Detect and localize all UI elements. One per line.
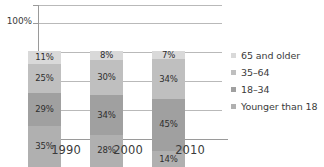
bar-segment-35-64[interactable]: 34% bbox=[152, 59, 185, 98]
segment-value-label: 29% bbox=[35, 105, 53, 114]
legend-label: 35–64 bbox=[241, 67, 269, 78]
legend-swatch-icon bbox=[231, 70, 236, 75]
y-axis-tick bbox=[33, 5, 38, 6]
gridline bbox=[38, 110, 222, 111]
segment-value-label: 7% bbox=[162, 51, 175, 60]
legend-swatch-icon bbox=[231, 87, 236, 92]
segment-value-label: 45% bbox=[159, 120, 177, 129]
plot-area bbox=[38, 5, 222, 139]
bar-segment-18-34[interactable]: 34% bbox=[90, 95, 123, 134]
bar-segment-65-and-older[interactable]: 11% bbox=[28, 51, 61, 64]
gridline bbox=[38, 52, 222, 53]
y-axis-tick bbox=[33, 23, 38, 24]
gridline bbox=[38, 81, 222, 82]
y-axis-label-100: 100% bbox=[1, 16, 32, 26]
legend-swatch-icon bbox=[231, 53, 236, 58]
x-axis-label-1990: 1990 bbox=[36, 143, 96, 157]
legend-label: 18–34 bbox=[241, 84, 269, 95]
legend-item-35-64[interactable]: 35–64 bbox=[231, 64, 323, 81]
segment-value-label: 11% bbox=[35, 53, 53, 62]
legend-item-younger-than-18[interactable]: Younger than 18 bbox=[231, 98, 323, 115]
segment-value-label: 8% bbox=[100, 51, 113, 60]
bar-segment-18-34[interactable]: 29% bbox=[28, 93, 61, 127]
segment-value-label: 30% bbox=[97, 73, 115, 82]
bar-segment-35-64[interactable]: 25% bbox=[28, 64, 61, 93]
legend-swatch-icon bbox=[231, 104, 236, 109]
gridline-100-percent bbox=[38, 23, 222, 24]
segment-value-label: 25% bbox=[35, 74, 53, 83]
bar-segment-35-64[interactable]: 30% bbox=[90, 60, 123, 95]
legend-item-18-34[interactable]: 18–34 bbox=[231, 81, 323, 98]
x-axis-label-2000: 2000 bbox=[98, 143, 158, 157]
bar-segment-65-and-older[interactable]: 8% bbox=[90, 51, 123, 60]
legend-item-65-and-older[interactable]: 65 and older bbox=[231, 47, 323, 64]
chart-legend: 65 and older 35–64 18–34 Younger than 18 bbox=[231, 47, 323, 115]
gridline bbox=[38, 5, 222, 6]
stacked-bar-chart: 100% 11% 25% 29% 35% 8% 30% 34% 28% 7% 3… bbox=[0, 0, 324, 167]
segment-value-label: 34% bbox=[97, 111, 115, 120]
legend-label: 65 and older bbox=[241, 50, 300, 61]
segment-value-label: 34% bbox=[159, 75, 177, 84]
legend-label: Younger than 18 bbox=[241, 101, 317, 112]
bar-segment-65-and-older[interactable]: 7% bbox=[152, 51, 185, 59]
x-axis-label-2010: 2010 bbox=[160, 143, 220, 157]
